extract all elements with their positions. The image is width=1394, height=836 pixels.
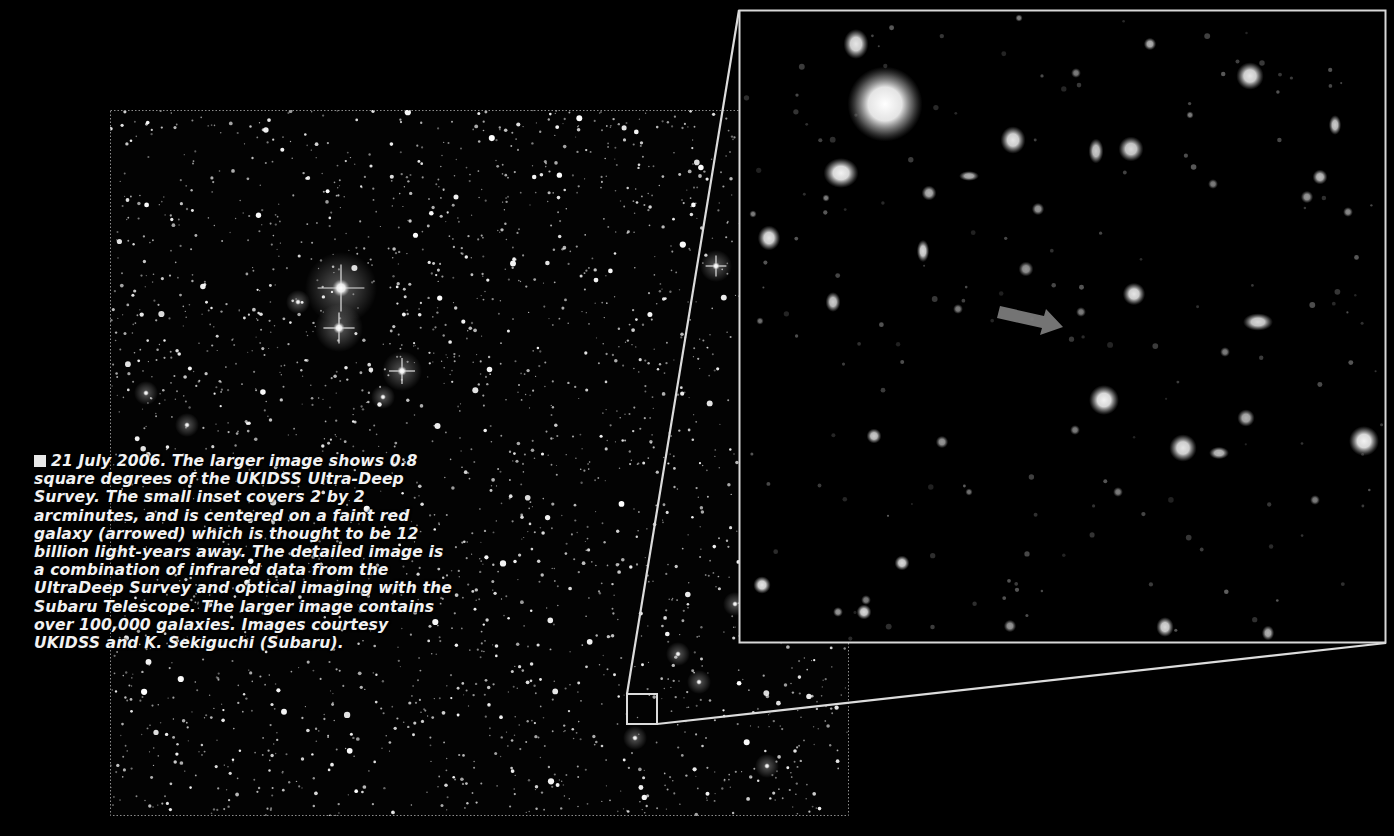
galaxy [959,171,979,181]
star [679,289,680,290]
star [510,260,516,266]
faint-source [962,299,966,303]
star [439,697,441,699]
star [447,211,449,213]
star [306,144,308,146]
faint-source [1354,255,1359,260]
star [450,697,452,699]
galaxy [1001,126,1026,154]
star [161,277,164,280]
star [444,783,448,787]
star [398,263,399,264]
star [155,359,157,361]
star [518,280,520,282]
star [310,258,312,260]
star [158,704,160,706]
star [492,589,493,590]
star [269,418,272,421]
star [396,717,398,719]
star [529,501,531,503]
faint-source [744,95,749,100]
star [272,787,274,789]
star [205,448,207,450]
star [273,235,275,237]
star [686,189,687,190]
star [467,541,468,542]
star [632,430,634,432]
star [471,322,473,324]
star [266,808,268,810]
star [286,267,288,269]
star [176,124,178,126]
faint-source [1081,335,1084,338]
star [548,618,554,624]
star [260,185,262,187]
star [504,268,506,270]
star [568,112,570,114]
star [413,722,416,725]
star [258,230,260,232]
faint-source [793,109,798,114]
star [261,209,263,211]
star [641,635,643,637]
faint-source [1335,289,1341,295]
star [407,313,409,315]
star [575,457,577,459]
star [537,560,540,563]
star [585,615,587,617]
star [141,671,143,673]
star [718,576,720,578]
star [725,155,727,157]
star [660,283,662,285]
star [546,607,547,608]
star [505,399,507,401]
star [548,455,549,456]
star [557,585,559,587]
star [196,689,198,691]
star [177,277,179,279]
star [722,709,724,711]
star [422,231,424,233]
star [449,374,451,376]
star [188,406,190,408]
star [125,671,127,673]
star [548,191,551,194]
star [587,538,589,540]
star [430,761,431,762]
star [231,169,235,173]
galaxy [749,210,757,218]
faint-source [853,611,856,614]
star [618,328,620,330]
star [136,314,138,316]
star [714,449,716,451]
faint-source [878,45,880,47]
star [150,776,153,779]
star [744,739,750,745]
star [481,650,483,652]
star [702,465,704,467]
star [336,436,337,437]
star [306,176,310,180]
star [137,202,140,205]
galaxy [1113,487,1123,497]
star [420,302,422,304]
star [468,705,469,706]
partial-text-fragment [4,830,26,836]
faint-source [1348,360,1353,365]
star [719,424,720,425]
star [114,672,116,674]
star [256,791,258,793]
star [447,142,449,144]
star [204,281,206,283]
star [538,581,540,583]
star [213,326,214,327]
caption-date: 21 July 2006. [51,452,167,470]
star [605,447,608,450]
star [328,769,331,772]
star [499,126,501,128]
star [702,340,704,342]
star [709,699,712,702]
star [831,712,833,714]
star [585,541,586,542]
star [195,774,197,776]
